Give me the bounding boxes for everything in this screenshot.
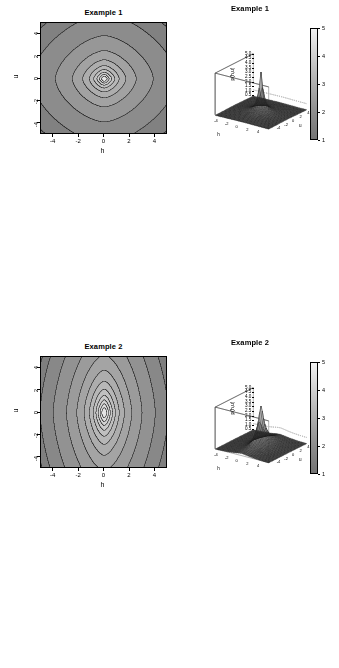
contour-plot-panel-2: Example 2-4-2024-4-2024hu [0,334,175,501]
x-tick-mark [154,468,155,471]
perspective-u-tick-label: 0 [292,452,294,457]
perspective-h-tick-label: -2 [225,121,229,126]
contour-plot-title: Example 1 [40,8,167,17]
perspective-h-tick-label: 0 [236,458,238,463]
colorbar-tick-mark [318,362,320,363]
y-tick-label: -4 [33,122,39,140]
z-tick-mark [252,397,255,398]
y-tick-label: 2 [33,55,39,73]
z-tick-mark [252,416,255,417]
perspective-u-tick-label: 0 [292,118,294,123]
perspective-u-tick-label: 2 [300,114,302,119]
x-tick-mark [78,468,79,471]
z-tick-mark [252,411,255,412]
z-tick-mark [252,77,255,78]
x-tick-label: 0 [95,472,113,478]
z-tick-mark [252,72,255,73]
z-tick-mark [252,406,255,407]
colorbar-tick-mark [318,28,320,29]
x-tick-label: 2 [120,138,138,144]
perspective-u-tick-label: -4 [277,125,281,130]
perspective-u-axis-title: u [299,457,302,462]
y-tick-label: -2 [33,99,39,117]
z-tick-mark [252,58,255,59]
perspective-h-axis-title: h [217,466,220,471]
contour-plot-title: Example 2 [40,342,167,351]
perspective-u-axis-title: u [299,123,302,128]
y-tick-label: 2 [33,389,39,407]
perspective-h-tick-label: 0 [236,124,238,129]
colorbar-tick-label: 1 [322,137,325,143]
contour-x-axis-title: h [101,481,105,488]
perspective-3d-panel-1: Example 15.04.54.03.53.02.52.01.51.00.5p… [175,0,339,167]
colorbar-tick-mark [318,56,320,57]
perspective-h-tick-label: -2 [225,455,229,460]
perspective-z-axis-title: p(h,u) [229,61,235,87]
x-tick-label: -4 [44,138,62,144]
colorbar-tick-label: 5 [322,359,325,365]
z-tick-label: 0.5 [237,92,251,97]
colorbar-tick-label: 2 [322,443,325,449]
y-tick-label: 4 [33,366,39,384]
y-tick-label: 0 [33,411,39,429]
perspective-u-tick-label: -2 [284,122,288,127]
z-tick-label: 0.5 [237,426,251,431]
colorbar-tick-mark [318,84,320,85]
contour-y-axis-title: u [12,404,19,418]
y-tick-label: 0 [33,77,39,95]
colorbar [310,28,318,140]
perspective-u-tick-label: 2 [300,448,302,453]
colorbar-tick-mark [318,390,320,391]
x-tick-mark [103,468,104,471]
x-tick-mark [52,134,53,137]
perspective-h-axis-title: h [217,132,220,137]
colorbar-tick-label: 3 [322,81,325,87]
z-tick-mark [252,86,255,87]
z-tick-mark [252,95,255,96]
x-tick-mark [78,134,79,137]
x-tick-mark [103,134,104,137]
contour-plot-area [40,356,167,468]
perspective-h-tick-label: 4 [257,129,259,134]
z-tick-mark [252,392,255,393]
colorbar-tick-label: 4 [322,387,325,393]
z-tick-mark [252,63,255,64]
colorbar-tick-mark [318,112,320,113]
perspective-h-tick-label: 2 [246,127,248,132]
y-tick-label: -4 [33,456,39,474]
colorbar-tick-mark [318,418,320,419]
z-tick-mark [252,388,255,389]
perspective-h-tick-label: -4 [214,118,218,123]
colorbar-tick-mark [318,140,320,141]
y-tick-label: -2 [33,433,39,451]
perspective-3d-panel-2: Example 25.04.54.03.53.02.52.01.51.00.5p… [175,334,339,501]
y-tick-label: 4 [33,32,39,50]
x-tick-label: 2 [120,472,138,478]
z-tick-mark [252,425,255,426]
x-tick-mark [154,134,155,137]
colorbar-tick-label: 4 [322,53,325,59]
perspective-u-tick-label: -4 [277,459,281,464]
z-tick-mark [252,54,255,55]
x-tick-label: -4 [44,472,62,478]
x-tick-mark [52,468,53,471]
x-tick-label: 4 [145,472,163,478]
colorbar [310,362,318,474]
x-tick-mark [129,134,130,137]
perspective-u-tick-label: -2 [284,456,288,461]
z-tick-mark [252,68,255,69]
figure-multipanel-plot-grid: Example 1-4-2024-4-2024huExample 15.04.5… [0,0,339,668]
colorbar-tick-label: 2 [322,109,325,115]
panel-row-2: Example 2-4-2024-4-2024huExample 25.04.5… [0,334,339,501]
colorbar-tick-label: 5 [322,25,325,31]
contour-field-canvas [41,357,167,468]
x-tick-label: 4 [145,138,163,144]
colorbar-tick-label: 3 [322,415,325,421]
colorbar-tick-mark [318,446,320,447]
contour-plot-panel-1: Example 1-4-2024-4-2024hu [0,0,175,167]
z-tick-mark [252,91,255,92]
colorbar-tick-label: 1 [322,471,325,477]
contour-y-axis-title: u [12,70,19,84]
z-tick-mark [252,429,255,430]
z-tick-mark [252,82,255,83]
